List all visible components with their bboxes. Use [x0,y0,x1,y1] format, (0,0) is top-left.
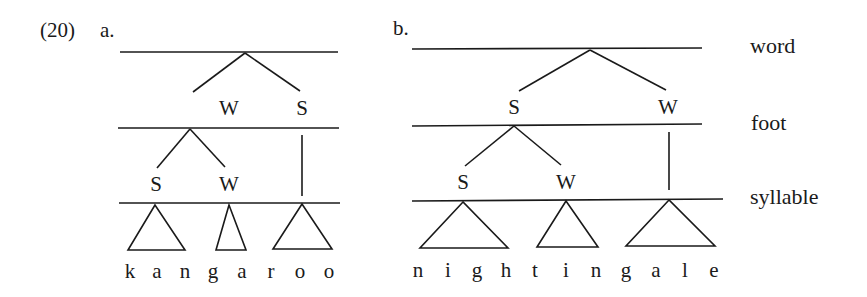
letter: n [413,260,424,281]
tree-diagram-lines [0,0,867,297]
tree-a-label: a. [100,20,115,41]
tree-b-syllable-line [412,199,723,201]
tree-b-syllable-1 [420,202,508,248]
letter: a [651,260,660,281]
letter: r [268,261,275,282]
tree-a-syllable-3 [273,204,332,249]
letter: g [472,260,483,281]
letter: a [152,261,161,282]
tree-a-syllable-2 [216,205,246,250]
tree-b-syllable-3 [626,200,715,246]
letter: t [532,260,538,281]
letter: g [621,260,632,281]
tree-b-foot-child-2: W [556,172,576,193]
tree-a-foot-child-1: S [150,174,162,195]
tier-label-syllable: syllable [750,186,818,208]
tree-a-word-child-2: S [296,98,308,119]
tree-b-foot-child-1: S [457,172,469,193]
letter: o [324,261,335,282]
tier-label-word: word [750,35,795,57]
tree-b-label: b. [393,18,409,39]
letter: e [709,260,718,281]
tree-a-syllable-1 [128,205,185,250]
letter: l [682,260,688,281]
letter: i [445,260,451,281]
tree-b-word-line [412,48,702,49]
letter: n [591,260,602,281]
example-number: (20) [40,20,75,41]
letter: i [563,260,569,281]
tier-label-foot: foot [751,112,786,134]
tree-b-foot-line [412,124,702,126]
tree-a-word-child-1: W [219,98,239,119]
tree-b-syllable-2 [537,201,598,247]
tree-b-word-child-1: S [508,97,520,118]
tree-b-word-child-2: W [658,97,678,118]
letter: h [501,260,512,281]
letter: g [208,261,219,282]
letter: k [125,261,136,282]
tree-a-foot-child-2: W [219,174,239,195]
letter: o [295,261,306,282]
letter: n [180,261,191,282]
letter: a [237,261,246,282]
